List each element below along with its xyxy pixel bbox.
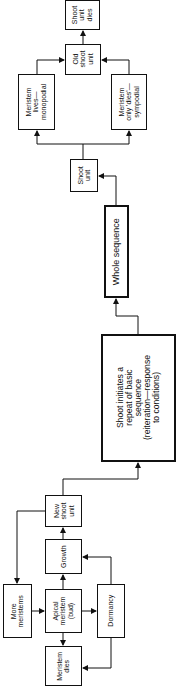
node-label: Dormancy: [107, 595, 114, 627]
node-apical-meristem: Apical meristem (bud): [45, 589, 82, 633]
node-whole-sequence: Whole sequence: [104, 205, 129, 298]
node-label: Apical meristem (bud): [52, 597, 74, 626]
node-label: Meristem dies: [56, 652, 71, 681]
node-dormancy: Dormancy: [97, 584, 125, 638]
node-meristem-lives: Meristem lives— monopodial: [18, 74, 55, 130]
node-shoot-unit-dies: Shoot unit dies: [65, 0, 100, 30]
node-label: Meristem only 'dies'— sympodial: [118, 83, 140, 120]
node-label: Old shoot unit: [72, 51, 94, 68]
node-shoot-initiates: Shoot initiates a repeat of basic sequen…: [101, 334, 176, 462]
node-label: New shoot unit: [52, 502, 74, 519]
node-more-meristems: More meristems: [3, 584, 32, 638]
node-old-shoot-unit: Old shoot unit: [65, 44, 101, 75]
node-label: Shoot initiates a repeat of basic sequen…: [116, 355, 161, 440]
node-label: Growth: [60, 545, 67, 568]
node-label: More meristems: [10, 595, 25, 627]
node-meristem-dies: Meristem dies: [45, 646, 82, 686]
node-label: Whole sequence: [112, 218, 121, 285]
node-new-shoot-unit: New shoot unit: [45, 495, 82, 527]
node-label: Shoot unit: [77, 166, 92, 184]
node-label: Shoot unit dies: [71, 6, 93, 24]
node-shoot-unit: Shoot unit: [70, 159, 98, 192]
node-meristem-dies-sympodial: Meristem only 'dies'— sympodial: [111, 74, 147, 130]
node-growth: Growth: [45, 539, 82, 574]
node-label: Meristem lives— monopodial: [25, 84, 47, 120]
